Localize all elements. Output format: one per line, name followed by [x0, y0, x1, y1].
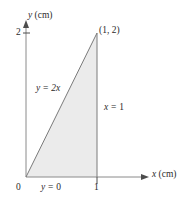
- equation-y2x-lhs: y: [36, 83, 40, 93]
- equation-y0-operator: =: [48, 182, 54, 192]
- y-axis-arrowhead: [23, 20, 29, 28]
- y-tick-label-2: 2: [16, 28, 21, 38]
- equation-label-y-equals-2x: y = 2x: [36, 84, 61, 94]
- x-axis-arrowhead: [141, 174, 149, 180]
- equation-y0-rhs: 0: [56, 182, 61, 192]
- vertex-point-label: (1, 2): [99, 26, 120, 36]
- equation-label-y-equals-0: y = 0: [41, 183, 61, 193]
- x-axis-variable: x: [152, 169, 156, 179]
- x-axis-label: x (cm): [152, 170, 177, 180]
- x-axis-unit: (cm): [159, 169, 177, 179]
- math-figure: y (cm) x (cm) 2 0 1 y = 2x x = 1 y = 0 (…: [0, 0, 182, 207]
- equation-y2x-rhs: 2x: [51, 83, 60, 93]
- equation-y2x-operator: =: [43, 83, 49, 93]
- origin-tick-label-0: 0: [16, 183, 21, 193]
- equation-x1-rhs: 1: [119, 102, 124, 112]
- y-axis-variable: y: [28, 10, 32, 20]
- y-axis-unit: (cm): [35, 10, 53, 20]
- equation-label-x-equals-1: x = 1: [104, 103, 124, 113]
- equation-x1-operator: =: [111, 102, 117, 112]
- equation-x1-lhs: x: [104, 102, 108, 112]
- x-tick-label-1: 1: [94, 183, 99, 193]
- y-axis-label: y (cm): [28, 11, 53, 21]
- equation-y0-lhs: y: [41, 182, 45, 192]
